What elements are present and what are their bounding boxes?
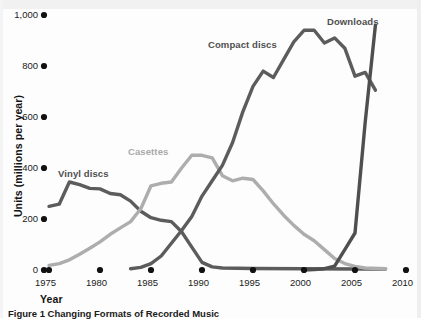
x-tick-label: 1995 bbox=[239, 277, 260, 288]
x-tick-marker bbox=[148, 267, 154, 273]
x-tick-marker bbox=[403, 267, 409, 273]
y-tick-marker bbox=[41, 63, 47, 69]
y-tick-marker bbox=[41, 165, 47, 171]
x-tick-label: 2005 bbox=[341, 277, 362, 288]
x-tick-label: 2010 bbox=[392, 277, 413, 288]
series-label-downloads: Downloads bbox=[327, 16, 379, 27]
series-label-compact-discs: Compact discs bbox=[208, 39, 277, 50]
y-tick-marker bbox=[41, 216, 47, 222]
series-line-downloads bbox=[304, 25, 375, 270]
x-tick-label: 1980 bbox=[86, 277, 107, 288]
x-tick-marker bbox=[301, 267, 307, 273]
x-tick-label: 1975 bbox=[35, 277, 56, 288]
series-label-casettes: Casettes bbox=[128, 146, 168, 157]
x-tick-marker bbox=[199, 267, 205, 273]
series-line-vinyl-discs bbox=[49, 182, 386, 269]
x-tick-marker bbox=[250, 267, 256, 273]
x-tick-marker bbox=[46, 267, 52, 273]
figure-caption: Figure 1 Changing Formats of Recorded Mu… bbox=[8, 308, 219, 319]
y-tick-marker bbox=[41, 114, 47, 120]
y-tick-label: 0 bbox=[0, 264, 38, 275]
series-layer bbox=[49, 25, 386, 270]
y-tick-marker bbox=[41, 12, 47, 18]
y-axis-title: Units (millions per year) bbox=[12, 91, 24, 221]
y-tick-label: 1,000 bbox=[0, 9, 38, 20]
x-axis-title: Year bbox=[40, 293, 63, 305]
y-tick-label: 800 bbox=[0, 60, 38, 71]
x-tick-label: 2000 bbox=[290, 277, 311, 288]
series-label-vinyl-discs: Vinyl discs bbox=[58, 168, 109, 179]
x-tick-marker bbox=[97, 267, 103, 273]
x-tick-label: 1990 bbox=[188, 277, 209, 288]
x-tick-marker bbox=[352, 267, 358, 273]
x-tick-label: 1985 bbox=[137, 277, 158, 288]
